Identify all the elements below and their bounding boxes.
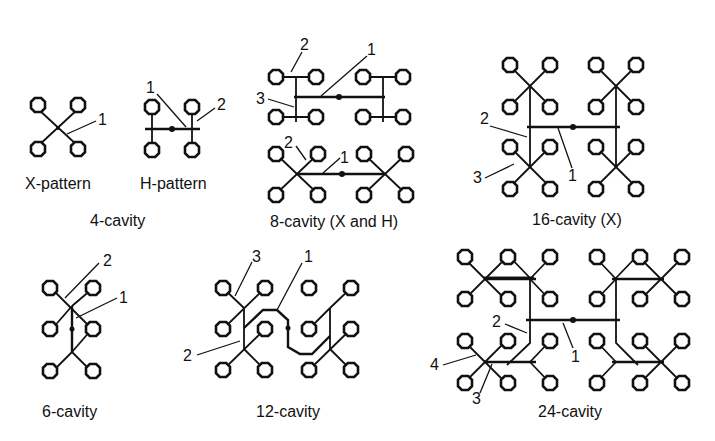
cavity-icon <box>216 281 230 295</box>
cavity-icon <box>458 376 472 390</box>
cavity-icon <box>675 376 689 390</box>
cavity-icon <box>589 100 603 114</box>
cavity-icon <box>185 100 199 114</box>
eight-cavity-h-layout: 2 1 3 <box>256 36 410 124</box>
cavity-icon <box>633 250 647 264</box>
cavity-icon <box>543 100 557 114</box>
caption-16-cavity: 16-cavity (X) <box>532 211 622 228</box>
callout-2: 2 <box>183 347 192 364</box>
cavity-icon <box>543 250 557 264</box>
cavity-icon <box>145 100 159 114</box>
cavity-icon <box>43 364 57 378</box>
callout-2: 2 <box>300 36 309 53</box>
callout-3: 3 <box>252 248 261 265</box>
cavity-icon <box>543 58 557 72</box>
cavity-icon <box>86 322 100 336</box>
cavity-icon <box>357 188 371 202</box>
four-cavity-h-pattern: 1 2 H-pattern <box>140 79 226 192</box>
cavity-icon <box>629 100 643 114</box>
cavity-icon <box>258 322 272 336</box>
callout-2: 2 <box>217 96 226 113</box>
cavity-icon <box>302 322 316 336</box>
caption-12-cavity: 12-cavity <box>256 403 320 420</box>
cavity-icon <box>71 142 85 156</box>
twenty-four-cavity-layout: 2 1 4 3 <box>430 250 689 407</box>
cavity-icon <box>458 250 472 264</box>
callout-2: 2 <box>103 252 112 269</box>
cavity-icon <box>501 376 515 390</box>
cavity-icon <box>311 147 325 161</box>
cavity-icon <box>629 58 643 72</box>
cavity-icon <box>543 334 557 348</box>
cavity-icon <box>357 147 371 161</box>
cavity-icon <box>543 140 557 154</box>
callout-2: 2 <box>492 313 501 330</box>
cavity-icon <box>43 322 57 336</box>
cavity-icon <box>543 292 557 306</box>
cavity-icon <box>216 322 230 336</box>
cavity-icon <box>396 110 410 124</box>
four-cavity-x-pattern: 1 X-pattern <box>25 98 107 192</box>
cavity-icon <box>589 58 603 72</box>
cavity-icon <box>356 110 370 124</box>
cavity-icon <box>503 140 517 154</box>
cavity-icon <box>43 281 57 295</box>
cavity-icon <box>399 147 413 161</box>
twelve-cavity-layout: 3 1 2 <box>183 248 358 377</box>
caption-8-cavity: 8-cavity (X and H) <box>270 213 398 230</box>
cavity-icon <box>503 182 517 196</box>
callout-3: 3 <box>473 169 482 186</box>
cavity-icon <box>629 140 643 154</box>
cavity-icon <box>633 376 647 390</box>
cavity-icon <box>31 98 45 112</box>
cavity-icon <box>675 250 689 264</box>
callout-3: 3 <box>472 390 481 407</box>
variant-label: H-pattern <box>140 175 207 192</box>
cavity-icon <box>503 58 517 72</box>
cavity-icon <box>344 363 358 377</box>
cavity-icon <box>309 110 323 124</box>
callout-1: 1 <box>367 41 376 58</box>
cavity-icon <box>590 250 604 264</box>
cavity-icon <box>145 143 159 157</box>
caption-24-cavity: 24-cavity <box>538 403 602 420</box>
cavity-icon <box>311 188 325 202</box>
callout-3: 3 <box>256 90 265 107</box>
cavity-icon <box>543 376 557 390</box>
cavity-icon <box>633 292 647 306</box>
cavity-icon <box>675 292 689 306</box>
cavity-icon <box>589 140 603 154</box>
cavity-icon <box>258 363 272 377</box>
cavity-icon <box>344 322 358 336</box>
cavity-icon <box>590 334 604 348</box>
callout-1: 1 <box>304 248 313 265</box>
cavity-icon <box>185 143 199 157</box>
cavity-icon <box>590 292 604 306</box>
cavity-icon <box>396 70 410 84</box>
cavity-icon <box>356 70 370 84</box>
cavity-icon <box>31 142 45 156</box>
variant-label: X-pattern <box>25 175 91 192</box>
runner-layout-diagram: 1 X-pattern 1 2 H-pattern 4-cavity <box>0 0 715 441</box>
cavity-icon <box>269 70 283 84</box>
cavity-icon <box>590 376 604 390</box>
cavity-icon <box>675 334 689 348</box>
callout-1: 1 <box>568 167 577 184</box>
cavity-icon <box>503 100 517 114</box>
cavity-icon <box>629 182 643 196</box>
cavity-icon <box>71 98 85 112</box>
cavity-icon <box>269 188 283 202</box>
cavity-icon <box>501 250 515 264</box>
cavity-icon <box>458 334 472 348</box>
sixteen-cavity-x-layout: 2 3 1 <box>473 58 643 196</box>
cavity-icon <box>501 334 515 348</box>
cavity-icon <box>302 363 316 377</box>
six-cavity-layout: 2 1 <box>43 252 128 378</box>
callout-1: 1 <box>98 111 107 128</box>
caption-4-cavity: 4-cavity <box>90 212 145 229</box>
cavity-icon <box>258 281 272 295</box>
cavity-icon <box>269 110 283 124</box>
callout-1: 1 <box>571 348 580 365</box>
callout-1: 1 <box>340 149 349 166</box>
callout-2: 2 <box>480 110 489 127</box>
